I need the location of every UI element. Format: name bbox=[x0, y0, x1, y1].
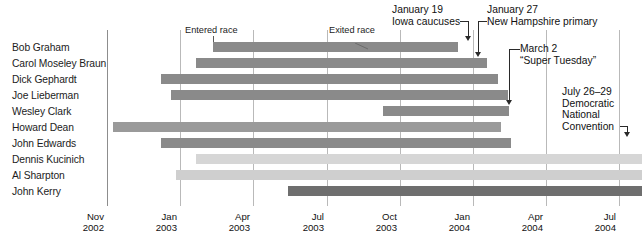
x-tick-year: 2003 bbox=[340, 222, 397, 233]
x-tick-year: 2004 bbox=[413, 222, 470, 233]
iowa-caucuses-elbow-v bbox=[468, 21, 469, 37]
category-label-dick-gephardt: Dick Gephardt bbox=[0, 75, 107, 85]
x-tick-month: Nov bbox=[47, 211, 104, 222]
category-label-al-sharpton: Al Sharpton bbox=[0, 171, 107, 181]
gridline-nov-2002 bbox=[107, 30, 108, 206]
x-tick-month: Jan bbox=[413, 211, 470, 222]
x-tick-apr-2004: Apr2004 bbox=[486, 211, 543, 233]
bar-joe-lieberman bbox=[171, 90, 508, 100]
x-tick-oct-2003: Oct2003 bbox=[340, 211, 397, 233]
x-tick-year: 2003 bbox=[193, 222, 250, 233]
x-tick-apr-2003: Apr2003 bbox=[193, 211, 250, 233]
super-tuesday-date: March 2 bbox=[520, 43, 557, 55]
super-tuesday-arrow bbox=[506, 100, 512, 105]
bar-dick-gephardt bbox=[161, 74, 498, 84]
x-tick-nov-2002: Nov2002 bbox=[47, 211, 104, 233]
bar-dennis-kucinich bbox=[196, 154, 642, 164]
dnc-convention-date: July 26–29 bbox=[562, 86, 612, 98]
x-tick-jan-2004: Jan2004 bbox=[413, 211, 470, 233]
nh-primary-name: New Hampshire primary bbox=[487, 16, 597, 28]
nh-primary-arrow bbox=[475, 52, 481, 57]
dnc-convention-arrow bbox=[624, 132, 630, 137]
x-tick-year: 2004 bbox=[486, 222, 543, 233]
bar-bob-graham bbox=[213, 42, 458, 52]
category-label-carol-moseley-braun: Carol Moseley Braun bbox=[0, 59, 107, 69]
super-tuesday-elbow-h bbox=[509, 49, 520, 50]
bar-john-edwards bbox=[161, 138, 511, 148]
x-tick-month: Jan bbox=[120, 211, 177, 222]
nh-primary-elbow-h bbox=[478, 21, 487, 22]
x-tick-month: Apr bbox=[193, 211, 250, 222]
x-tick-year: 2004 bbox=[559, 222, 616, 233]
x-tick-year: 2002 bbox=[47, 222, 104, 233]
iowa-caucuses-name: Iowa caucuses bbox=[392, 16, 460, 28]
exited-race-leader bbox=[355, 36, 369, 42]
dnc-convention-line4: Convention bbox=[562, 121, 614, 133]
category-label-wesley-clark: Wesley Clark bbox=[0, 107, 107, 117]
x-tick-month: Jul bbox=[267, 211, 324, 222]
bar-howard-dean bbox=[113, 122, 501, 132]
x-tick-year: 2003 bbox=[120, 222, 177, 233]
timeline-chart: Bob GrahamCarol Moseley BraunDick Gephar… bbox=[0, 0, 642, 250]
x-tick-jul-2004: Jul2004 bbox=[559, 211, 616, 233]
category-label-dennis-kucinich: Dennis Kucinich bbox=[0, 155, 107, 165]
exited-race-label: Exited race bbox=[329, 25, 375, 35]
bar-wesley-clark bbox=[383, 106, 509, 116]
dnc-convention-line3: National bbox=[562, 109, 600, 121]
category-label-howard-dean: Howard Dean bbox=[0, 123, 107, 133]
category-label-john-edwards: John Edwards bbox=[0, 139, 107, 149]
x-tick-year: 2003 bbox=[267, 222, 324, 233]
nh-primary-date: January 27 bbox=[487, 4, 538, 16]
super-tuesday-name: “Super Tuesday” bbox=[520, 55, 596, 67]
iowa-caucuses-date: January 19 bbox=[392, 4, 443, 16]
dnc-convention-line2: Democratic bbox=[562, 98, 614, 110]
bar-al-sharpton bbox=[176, 170, 642, 180]
x-tick-jan-2003: Jan2003 bbox=[120, 211, 177, 233]
category-label-john-kerry: John Kerry bbox=[0, 187, 107, 197]
x-tick-jul-2003: Jul2003 bbox=[267, 211, 324, 233]
x-tick-month: Jul bbox=[559, 211, 616, 222]
super-tuesday-elbow-v bbox=[509, 49, 510, 101]
bar-john-kerry bbox=[288, 186, 642, 196]
entered-race-leader bbox=[213, 36, 214, 42]
category-label-joe-lieberman: Joe Lieberman bbox=[0, 91, 107, 101]
iowa-caucuses-arrow bbox=[465, 36, 471, 41]
bar-carol-moseley-braun bbox=[196, 58, 487, 68]
category-label-bob-graham: Bob Graham bbox=[0, 43, 107, 53]
x-tick-month: Oct bbox=[340, 211, 397, 222]
nh-primary-elbow-v bbox=[478, 21, 479, 53]
entered-race-label: Entered race bbox=[185, 25, 238, 35]
x-tick-month: Apr bbox=[486, 211, 543, 222]
